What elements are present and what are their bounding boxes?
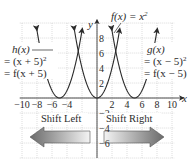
- shift-right-arrow: [104, 127, 164, 147]
- svg-text:= f(x − 5): = f(x − 5): [144, 67, 187, 80]
- svg-text:6: 6: [140, 99, 145, 110]
- svg-text:4: 4: [125, 99, 130, 110]
- svg-text:10: 10: [167, 99, 177, 110]
- svg-text:4: 4: [99, 63, 104, 74]
- f-label: f(x) = x2: [111, 10, 148, 23]
- svg-text:8: 8: [155, 99, 160, 110]
- svg-text:−4: −4: [99, 123, 110, 134]
- shift-left-arrow: [30, 127, 90, 147]
- svg-text:−6: −6: [99, 138, 110, 149]
- svg-text:−8: −8: [32, 99, 43, 110]
- x-axis-label: x: [181, 92, 187, 104]
- svg-text:−4: −4: [62, 99, 73, 110]
- svg-text:−6: −6: [47, 99, 58, 110]
- g-label: g(x) = (x − 5)2 = f(x − 5): [144, 43, 192, 80]
- f-leader-line: [114, 23, 121, 33]
- svg-text:= f(x + 5): = f(x + 5): [4, 67, 47, 80]
- svg-text:8: 8: [99, 33, 104, 44]
- h-label: h(x) = (x + 5)2 = f(x + 5): [2, 43, 58, 80]
- shift-right-label: Shift Right: [106, 113, 152, 124]
- svg-text:−10: −10: [14, 99, 30, 110]
- y-axis-label: y: [87, 18, 93, 30]
- svg-text:6: 6: [99, 48, 104, 59]
- parabola-shift-chart: −10−8−6−42468108642−2−4−6 f(x) = x2 h(x)…: [0, 0, 192, 165]
- shift-left-label: Shift Left: [41, 113, 82, 124]
- svg-text:2: 2: [110, 99, 115, 110]
- svg-text:2: 2: [99, 78, 104, 89]
